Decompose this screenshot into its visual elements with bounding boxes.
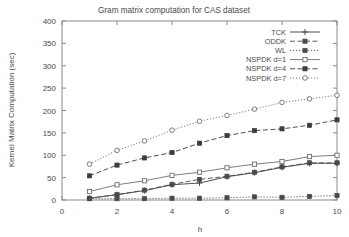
data-point-marker	[280, 159, 284, 163]
data-point-marker	[197, 170, 201, 174]
data-point-marker	[225, 133, 229, 137]
data-point-marker	[197, 141, 201, 145]
legend-label-oddk: ODDK	[265, 37, 286, 46]
data-point-marker	[197, 119, 202, 124]
data-point-marker	[307, 97, 312, 102]
y-axis-label: Kernel Matrix Computation (sec)	[7, 52, 16, 167]
x-axis-label: h	[198, 225, 202, 234]
legend-label-nspdk-d-7: NSPDK d=7	[246, 74, 286, 83]
legend-label-tck: TCK	[271, 28, 286, 37]
data-point-marker	[303, 58, 307, 62]
data-point-marker	[142, 188, 146, 192]
data-point-marker	[170, 196, 174, 200]
data-point-marker	[87, 189, 91, 193]
data-point-marker	[335, 153, 339, 157]
y-tick-label: 400	[43, 17, 57, 26]
data-point-marker	[335, 118, 339, 122]
x-tick-label: 10	[333, 207, 342, 216]
data-point-marker	[303, 67, 307, 71]
data-point-marker	[303, 76, 308, 81]
data-point-marker	[170, 182, 174, 186]
y-tick-label: 350	[43, 39, 57, 48]
y-tick-label: 50	[47, 174, 56, 183]
data-point-marker	[252, 107, 257, 112]
data-point-marker	[225, 196, 229, 200]
x-tick-label: 6	[225, 207, 230, 216]
x-tick-label: 0	[60, 207, 65, 216]
data-point-marker	[280, 127, 284, 131]
data-point-marker	[307, 194, 311, 198]
data-point-marker	[142, 139, 147, 144]
data-point-marker	[115, 193, 119, 197]
x-tick-label: 2	[115, 207, 120, 216]
data-point-marker	[303, 39, 307, 43]
data-point-marker	[87, 197, 91, 201]
data-point-marker	[225, 113, 230, 118]
data-point-marker	[303, 48, 307, 52]
data-point-marker	[142, 156, 146, 160]
data-point-marker	[197, 177, 201, 181]
x-tick-label: 8	[280, 207, 285, 216]
data-point-marker	[87, 162, 92, 167]
chart-title: Gram matrix computation for CAS dataset	[98, 6, 251, 15]
data-point-marker	[225, 166, 229, 170]
data-point-marker	[252, 170, 256, 174]
data-point-marker	[142, 197, 146, 201]
y-tick-label: 100	[43, 151, 57, 160]
data-point-marker	[170, 173, 174, 177]
legend-label-nspdk-d-1: NSPDK d=1	[246, 55, 286, 64]
data-point-marker	[87, 174, 91, 178]
y-tick-label: 150	[43, 129, 57, 138]
data-point-marker	[307, 123, 311, 127]
data-point-marker	[280, 195, 284, 199]
data-point-marker	[142, 179, 146, 183]
legend-label-wl: WL	[275, 46, 286, 55]
y-tick-label: 250	[43, 84, 57, 93]
x-tick-label: 4	[170, 207, 175, 216]
data-point-marker	[335, 93, 340, 98]
data-point-marker	[252, 162, 256, 166]
data-point-marker	[170, 128, 175, 133]
data-point-marker	[115, 197, 119, 201]
data-point-marker	[197, 196, 201, 200]
data-point-marker	[115, 148, 120, 153]
data-point-marker	[115, 183, 119, 187]
y-tick-label: 200	[43, 107, 57, 116]
data-point-marker	[280, 165, 284, 169]
data-point-marker	[335, 193, 339, 197]
data-point-marker	[307, 161, 311, 165]
gram-matrix-line-chart: Gram matrix computation for CAS dataset …	[0, 0, 349, 237]
legend-label-nspdk-d-4: NSPDK d=4	[246, 64, 286, 73]
data-point-marker	[252, 195, 256, 199]
y-tick-label: 300	[43, 62, 57, 71]
data-point-marker	[280, 100, 285, 105]
y-tick-label: 0	[52, 196, 57, 205]
data-point-marker	[225, 174, 229, 178]
data-point-marker	[335, 161, 339, 165]
chart-figure: Gram matrix computation for CAS dataset …	[0, 0, 349, 237]
data-point-marker	[115, 163, 119, 167]
data-point-marker	[170, 150, 174, 154]
data-point-marker	[252, 129, 256, 133]
data-point-marker	[307, 154, 311, 158]
